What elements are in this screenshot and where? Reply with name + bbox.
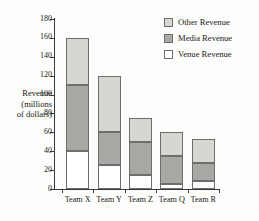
bar-segment-other-revenue [129,118,152,142]
legend-label: Other Revenue [178,17,230,27]
x-label-team-r: Team R [188,195,219,204]
x-tick-mark [62,189,63,193]
y-tick-label: 160 [40,32,52,41]
bar-segment-media-revenue [192,163,215,182]
bar-segment-media-revenue [66,85,89,151]
legend-item-venue-revenue: Venue Revenue [164,46,232,62]
x-tick-mark [188,189,189,193]
bar-segment-venue-revenue [129,175,152,189]
legend-label: Media Revenue [178,33,232,43]
y-tick-label: 60 [44,127,52,136]
y-tick-label: 40 [44,146,52,155]
bar-segment-other-revenue [66,38,89,85]
x-tick-mark [219,189,220,193]
legend-label: Venue Revenue [178,49,232,59]
y-tick-label: 100 [40,89,52,98]
bar-segment-media-revenue [160,156,183,184]
bar-segment-other-revenue [160,132,183,156]
legend-item-media-revenue: Media Revenue [164,30,232,46]
bar-segment-venue-revenue [98,165,121,189]
x-tick-mark [93,189,94,193]
legend-swatch-icon [164,18,173,27]
bar-team-q [160,132,183,189]
x-label-team-y: Team Y [93,195,124,204]
legend-swatch-icon [164,34,173,43]
chart-legend: Other RevenueMedia RevenueVenue Revenue [164,14,232,62]
bar-segment-other-revenue [98,76,121,133]
bar-segment-venue-revenue [160,184,183,189]
x-tick-mark [125,189,126,193]
bar-team-x [66,38,89,189]
x-label-team-z: Team Z [125,195,156,204]
bar-segment-media-revenue [129,142,152,175]
bar-segment-media-revenue [98,132,121,165]
y-tick-label: 180 [40,14,52,23]
bar-team-r [192,139,215,189]
bar-team-y [98,76,121,189]
bar-segment-other-revenue [192,139,215,163]
x-label-team-x: Team X [62,195,93,204]
x-tick-mark [156,189,157,193]
y-tick-label: 140 [40,51,52,60]
y-axis-line [54,18,55,190]
y-tick-label: 0 [48,184,52,193]
y-tick-label: 80 [44,108,52,117]
x-label-team-q: Team Q [156,195,187,204]
y-tick-label: 120 [40,70,52,79]
bar-team-z [129,118,152,189]
y-tick-label: 20 [44,165,52,174]
legend-swatch-icon [164,50,173,59]
stacked-bar-chart: Revenue (millions of dollars) 0204060801… [0,0,259,221]
x-axis-line [54,189,219,190]
bar-segment-venue-revenue [66,151,89,189]
legend-item-other-revenue: Other Revenue [164,14,232,30]
bar-segment-venue-revenue [192,181,215,189]
